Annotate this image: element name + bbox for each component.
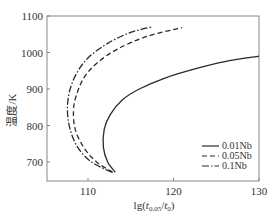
y-tick-label: 1000 <box>21 47 44 59</box>
chart: 110120130 70080090010001100 温度/K lg(t0.0… <box>0 0 273 221</box>
series-0.05Nb <box>73 28 182 173</box>
x-tick-label: 120 <box>165 185 182 197</box>
y-tick-label: 700 <box>27 156 44 168</box>
x-axis-label: lg(t0.05/t0) <box>134 199 175 213</box>
x-tick-label: 110 <box>80 185 97 197</box>
y-tick-label: 800 <box>27 120 44 132</box>
y-tick-label: 900 <box>27 83 44 95</box>
y-axis-label: 温度/K <box>5 93 18 126</box>
legend-label: 0.1Nb <box>222 160 247 171</box>
y-axis-ticks: 70080090010001100 <box>21 10 50 168</box>
x-tick-label: 130 <box>251 185 268 197</box>
y-tick-label: 1100 <box>21 10 43 22</box>
series-0.1Nb <box>67 27 152 172</box>
legend: 0.01Nb0.05Nb0.1Nb <box>202 140 252 171</box>
